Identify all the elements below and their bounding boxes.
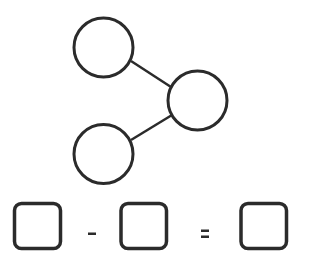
answer-box-minuend[interactable] <box>15 204 61 249</box>
answer-box-subtrahend[interactable] <box>121 204 167 249</box>
subtraction-equation <box>15 204 287 249</box>
bond-line-bottom <box>131 115 172 140</box>
part-circle-bottom[interactable] <box>74 125 133 184</box>
equals-sign-bottom <box>201 236 209 239</box>
answer-box-difference[interactable] <box>241 204 287 249</box>
equals-sign-top <box>201 230 209 233</box>
whole-circle[interactable] <box>168 71 227 130</box>
part-circle-top[interactable] <box>74 18 133 77</box>
minus-sign <box>88 233 96 236</box>
number-bond-worksheet <box>0 0 311 266</box>
number-bond-diagram <box>74 18 227 184</box>
bond-line-top <box>131 61 171 87</box>
